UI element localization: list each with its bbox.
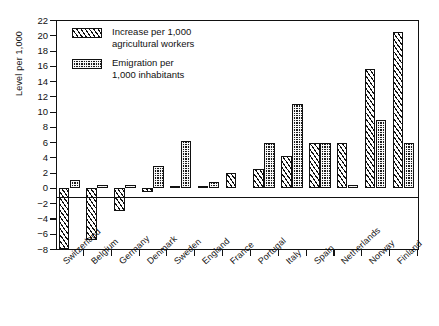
y-tick — [50, 203, 57, 204]
y-tick — [50, 218, 57, 219]
x-tick — [417, 250, 418, 256]
x-tick — [250, 250, 251, 256]
x-tick — [306, 250, 307, 256]
legend-label-emigration-line2: 1,000 inhabitants — [112, 69, 184, 80]
y-tick — [50, 51, 57, 52]
y-tick — [50, 127, 57, 128]
legend-item-increase: Increase per 1,000 agricultural workers — [72, 27, 252, 51]
legend-label-increase-line1: Increase per 1,000 — [112, 26, 191, 37]
x-tick-label: Italy — [284, 247, 303, 266]
y-tick — [50, 66, 57, 67]
legend: Increase per 1,000 agricultural workers … — [72, 27, 252, 89]
legend-label-increase-line2: agricultural workers — [112, 38, 194, 49]
x-tick — [222, 250, 223, 256]
x-tick-label: England — [200, 236, 231, 266]
y-tick — [50, 173, 57, 174]
y-tick — [50, 20, 57, 21]
legend-item-emigration: Emigration per 1,000 inhabitants — [72, 58, 252, 82]
bar-chart: Level per 1,000 2220181614121086420−2−4−… — [0, 0, 439, 326]
legend-swatch-emigration-icon — [72, 59, 102, 69]
x-tick — [111, 250, 112, 256]
x-tick-label: Portugal — [256, 236, 288, 267]
y-tick — [50, 35, 57, 36]
legend-label-emigration: Emigration per 1,000 inhabitants — [112, 57, 184, 80]
y-tick — [50, 142, 57, 143]
x-tick — [278, 250, 279, 256]
x-tick — [166, 250, 167, 256]
x-tick-label: Spain — [312, 243, 336, 266]
x-tick — [194, 250, 195, 256]
y-tick — [50, 188, 57, 189]
x-tick-label: Germany — [117, 233, 151, 266]
legend-label-increase: Increase per 1,000 agricultural workers — [112, 26, 194, 49]
y-tick — [50, 249, 57, 250]
y-tick — [50, 112, 57, 113]
legend-label-emigration-line1: Emigration per — [112, 57, 174, 68]
y-tick — [50, 81, 57, 82]
x-tick — [83, 250, 84, 256]
x-tick-label: France — [228, 239, 256, 266]
x-tick — [139, 250, 140, 256]
legend-swatch-increase-icon — [72, 28, 102, 38]
x-tick — [333, 250, 334, 256]
y-tick — [50, 96, 57, 97]
x-tick — [361, 250, 362, 256]
x-tick — [389, 250, 390, 256]
x-tick-label: Finland — [395, 238, 424, 266]
y-tick — [50, 234, 57, 235]
y-tick — [50, 157, 57, 158]
